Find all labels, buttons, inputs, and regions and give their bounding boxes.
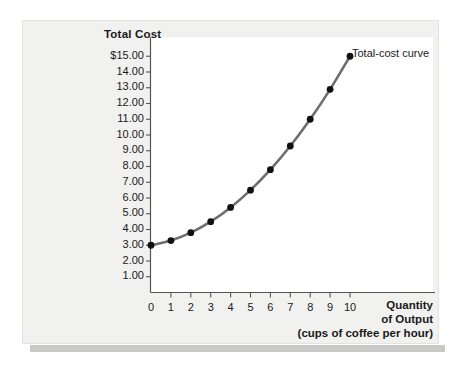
axis-lines: [151, 37, 436, 293]
data-point: [168, 237, 175, 244]
data-point: [148, 242, 155, 249]
x-axis-ticks: [171, 293, 350, 298]
curve-annotation-label: Total-cost curve: [352, 47, 429, 59]
data-point: [307, 116, 314, 123]
data-point: [187, 229, 194, 236]
x-axis-title-line3: (cups of coffee per hour): [293, 327, 433, 339]
data-point: [267, 166, 274, 173]
x-axis-title-line2: of Output: [333, 313, 433, 325]
data-point-markers: [148, 53, 354, 249]
figure-container: Total Cost 1.002.003.004.005.006.007.008…: [0, 0, 459, 369]
data-point: [247, 187, 254, 194]
data-point: [207, 218, 214, 225]
data-point: [287, 143, 294, 150]
total-cost-curve: [151, 56, 350, 245]
x-axis-title-line1: Quantity: [333, 299, 433, 311]
data-point: [327, 86, 334, 93]
data-point: [227, 204, 234, 211]
